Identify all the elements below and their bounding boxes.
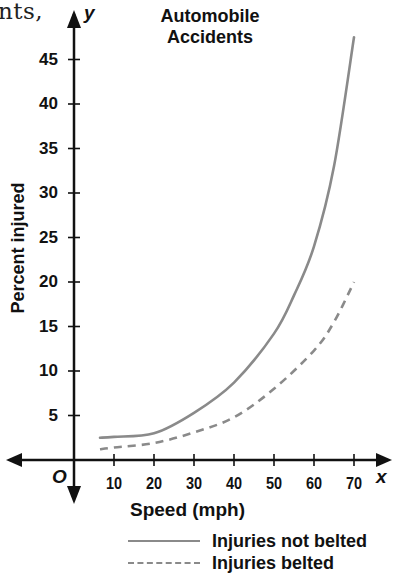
y-tick-label: 15: [24, 317, 58, 337]
legend-label-belted: Injuries belted: [212, 553, 334, 574]
series-not-belted-line: [100, 37, 354, 438]
legend-item-belted: Injuries belted: [128, 552, 367, 574]
x-tick-label: 20: [141, 474, 167, 494]
legend-item-not-belted: Injuries not belted: [128, 530, 367, 552]
y-tick-label: 10: [24, 361, 58, 381]
legend-label-not-belted: Injuries not belted: [212, 531, 367, 552]
x-axis-name: x: [376, 466, 387, 488]
y-tick-label: 35: [24, 139, 58, 159]
y-tick-label: 40: [24, 94, 58, 114]
origin-label: O: [52, 466, 67, 488]
x-tick-label: 50: [261, 474, 287, 494]
x-tick-label: 30: [181, 474, 207, 494]
y-tick-label: 5: [24, 406, 58, 426]
x-tick-label: 60: [301, 474, 327, 494]
y-tick-label: 45: [24, 50, 58, 70]
series-belted-line: [100, 282, 354, 449]
axis-ticks: [68, 60, 354, 467]
x-tick-label: 70: [341, 474, 367, 494]
y-tick-label: 30: [24, 183, 58, 203]
dashed-line-swatch-icon: [128, 562, 200, 564]
x-tick-label: 40: [221, 474, 247, 494]
y-tick-label: 25: [24, 228, 58, 248]
x-axis-left-arrow-icon: [6, 453, 22, 467]
x-tick-label: 10: [101, 474, 127, 494]
y-axis-name: y: [84, 2, 95, 24]
x-axis-label: Speed (mph): [130, 499, 245, 521]
y-axis-down-arrow-icon: [67, 486, 81, 504]
y-axis-label: Percent injured: [8, 182, 29, 313]
solid-line-swatch-icon: [128, 540, 200, 542]
y-tick-label: 20: [24, 272, 58, 292]
y-axis-up-arrow-icon: [67, 10, 81, 28]
legend: Injuries not belted Injuries belted: [128, 530, 367, 574]
x-axis-right-arrow-icon: [376, 453, 392, 467]
